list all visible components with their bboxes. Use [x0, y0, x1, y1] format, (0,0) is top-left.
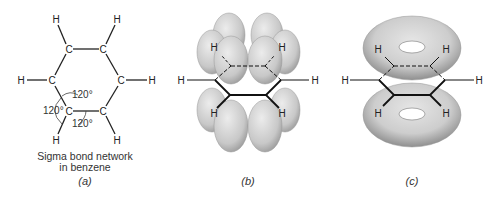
angle-label-left: 120° [43, 105, 64, 116]
svg-text:H: H [210, 42, 217, 53]
angle-label-top: 120° [72, 89, 93, 100]
svg-text:C: C [99, 44, 106, 55]
svg-text:H: H [311, 75, 318, 86]
svg-text:H: H [52, 14, 59, 25]
svg-text:H: H [442, 44, 449, 55]
svg-text:H: H [278, 42, 285, 53]
svg-text:H: H [17, 75, 24, 86]
svg-text:H: H [177, 75, 184, 86]
panel-label-a: (a) [70, 175, 100, 187]
svg-text:C: C [65, 106, 72, 117]
panel-p-orbitals: H H H H H H (b) [165, 0, 335, 197]
svg-text:C: C [99, 106, 106, 117]
svg-text:H: H [374, 108, 381, 119]
svg-text:H: H [341, 75, 348, 86]
svg-text:H: H [113, 135, 120, 146]
svg-text:H: H [210, 108, 217, 119]
caption-line2: in benzene [35, 162, 135, 173]
svg-text:C: C [65, 44, 72, 55]
svg-text:H: H [52, 135, 59, 146]
panel-pi-clouds: H H H H H H (c) [330, 0, 494, 197]
svg-text:H: H [113, 14, 120, 25]
pi-clouds-diagram: H H H H H H [330, 0, 494, 197]
svg-text:C: C [117, 75, 124, 86]
svg-text:H: H [475, 75, 482, 86]
panel-label-b: (b) [233, 175, 263, 187]
p-orbitals-diagram: H H H H H H [165, 0, 335, 197]
svg-text:H: H [278, 108, 285, 119]
panel-label-c: (c) [397, 175, 427, 187]
panel-sigma-network: C C C C C C H H H H H H 120° 120° 120° S… [0, 0, 170, 197]
svg-text:H: H [442, 108, 449, 119]
angle-label-bottom: 120° [72, 118, 93, 129]
svg-text:C: C [48, 75, 55, 86]
svg-text:H: H [148, 75, 155, 86]
svg-text:H: H [374, 44, 381, 55]
